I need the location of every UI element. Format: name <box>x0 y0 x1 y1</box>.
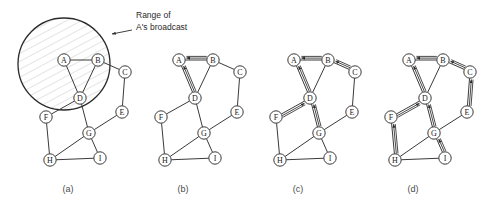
node-label-B: B <box>325 56 330 65</box>
edge-B-D <box>198 66 211 93</box>
node-label-F: F <box>274 113 279 122</box>
node-label-A: A <box>406 56 412 65</box>
arrow-B-to-A <box>186 56 206 58</box>
arrow-F-to-D <box>282 103 305 117</box>
annotation-line-1: Range of <box>136 10 171 20</box>
edge-B-D <box>428 66 441 93</box>
node-C: C <box>119 66 131 78</box>
panel-caption-b: (b) <box>178 184 189 194</box>
node-label-H: H <box>162 156 168 165</box>
node-B: B <box>92 54 104 66</box>
node-label-C: C <box>237 68 242 77</box>
edge-H-I <box>171 158 209 160</box>
node-C: C <box>464 66 476 78</box>
node-H: H <box>389 154 401 166</box>
node-E: E <box>346 106 358 118</box>
node-A: A <box>58 54 70 66</box>
node-A: A <box>288 54 300 66</box>
node-I: I <box>94 152 106 164</box>
arrow-head-line <box>184 66 195 91</box>
node-A: A <box>403 54 415 66</box>
edge-D-G <box>82 104 88 127</box>
node-label-E: E <box>350 108 355 117</box>
edge-D-F <box>166 101 189 114</box>
node-label-G: G <box>201 129 207 138</box>
edge-G-H <box>285 137 314 157</box>
node-B: B <box>437 54 449 66</box>
panel-d: ABCDEFGHI(d) <box>385 54 476 194</box>
edge-C-E <box>352 78 354 106</box>
node-D: D <box>189 92 201 104</box>
node-label-C: C <box>122 68 127 77</box>
node-H: H <box>44 154 56 166</box>
edge-G-H <box>55 137 84 157</box>
edge-H-I <box>401 158 439 160</box>
edge-D-G <box>197 104 203 127</box>
edge-F-H <box>277 123 280 154</box>
node-label-I: I <box>329 154 332 163</box>
node-E: E <box>231 106 243 118</box>
arrow-E-to-C <box>469 80 473 107</box>
node-label-D: D <box>422 94 428 103</box>
node-F: F <box>40 111 52 123</box>
arrow-D-to-A <box>184 65 196 91</box>
node-label-B: B <box>440 56 445 65</box>
node-F: F <box>155 111 167 123</box>
node-B: B <box>322 54 334 66</box>
node-label-H: H <box>47 156 53 165</box>
panel-group: ABCDEFGHI(a)ABCDEFGHI(b)ABCDEFGHI(c)ABCD… <box>18 18 476 194</box>
arrow-head-line <box>397 103 419 115</box>
annotation-leader-line <box>112 30 132 34</box>
node-G: G <box>313 127 325 139</box>
node-H: H <box>159 154 171 166</box>
node-label-G: G <box>316 129 322 138</box>
panel-a: ABCDEFGHI(a) <box>18 18 131 194</box>
node-D: D <box>74 92 86 104</box>
node-label-H: H <box>392 156 398 165</box>
panel-caption-a: (a) <box>63 184 74 194</box>
node-label-C: C <box>467 68 472 77</box>
node-A: A <box>173 54 185 66</box>
node-C: C <box>349 66 361 78</box>
node-E: E <box>461 106 473 118</box>
node-G: G <box>83 127 95 139</box>
annotation-line-2: A's broadcast <box>136 22 188 32</box>
node-label-G: G <box>431 129 437 138</box>
arrow-D-to-A <box>299 65 311 91</box>
node-label-D: D <box>192 94 198 103</box>
edge-C-E <box>467 78 469 106</box>
arrow-head-line <box>299 66 310 91</box>
arrow-D-to-A <box>414 65 426 91</box>
node-label-D: D <box>77 94 83 103</box>
edge-F-H <box>47 123 50 154</box>
broadcast-flooding-figure: ABCDEFGHI(a)ABCDEFGHI(b)ABCDEFGHI(c)ABCD… <box>0 0 496 207</box>
arrow-F-to-D <box>397 103 420 117</box>
node-label-I: I <box>214 154 217 163</box>
panel-caption-c: (c) <box>293 184 304 194</box>
node-C: C <box>234 66 246 78</box>
edge-F-H <box>162 123 165 154</box>
node-I: I <box>439 152 451 164</box>
node-F: F <box>385 111 397 123</box>
node-I: I <box>209 152 221 164</box>
node-label-F: F <box>44 113 49 122</box>
edge-G-H <box>170 137 199 157</box>
node-label-H: H <box>277 156 283 165</box>
edge-E-G <box>324 115 347 129</box>
node-label-E: E <box>465 108 470 117</box>
panel-b: ABCDEFGHI(b) <box>155 54 246 194</box>
edge-H-I <box>56 158 94 160</box>
edge-B-D <box>313 66 326 93</box>
node-label-A: A <box>176 56 182 65</box>
node-F: F <box>270 111 282 123</box>
node-label-D: D <box>307 94 313 103</box>
node-label-A: A <box>61 56 67 65</box>
node-label-E: E <box>235 108 240 117</box>
node-I: I <box>324 152 336 164</box>
range-annotation: Range of A's broadcast <box>112 10 188 34</box>
edge-C-E <box>237 78 239 106</box>
edge-E-G <box>209 115 232 129</box>
edge-G-I <box>321 139 327 153</box>
node-label-I: I <box>444 154 447 163</box>
node-D: D <box>419 92 431 104</box>
